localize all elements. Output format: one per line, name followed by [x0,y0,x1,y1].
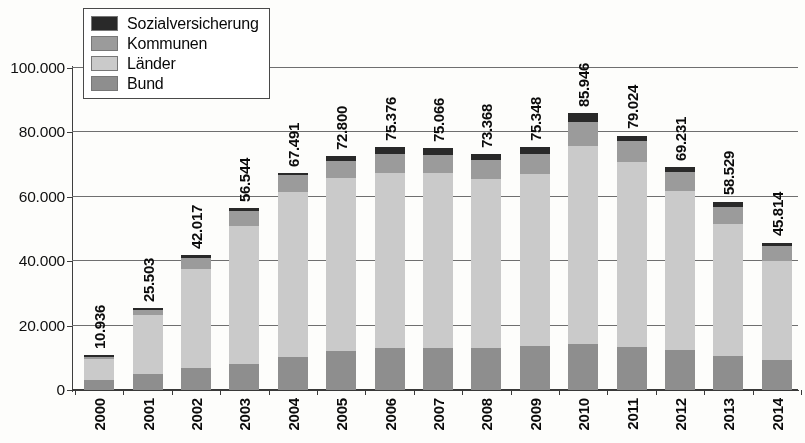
bar-group[interactable] [229,208,259,390]
legend-item[interactable]: Kommunen [91,34,259,53]
x-axis-tick-label: 2011 [624,398,641,430]
y-axis-tick-label: 80.000 [19,123,65,141]
legend-item-label: Bund [127,75,164,93]
bar-segment-bund [713,356,743,390]
bar-segment-kommunen [617,141,647,163]
x-axis-tick-label: 2013 [720,398,737,431]
bar-segment-länder [617,162,647,347]
bar-value-label: 25.503 [139,258,156,302]
bar-segment-kommunen [665,172,695,190]
bar-segment-kommunen [326,161,356,177]
bar-segment-länder [181,269,211,368]
y-axis-tick-label: 60.000 [19,188,65,206]
x-axis-tick-label: 2012 [672,398,689,431]
bar-group[interactable] [713,202,743,390]
bar-value-label: 56.544 [236,158,253,202]
bar-segment-kommunen [520,154,550,174]
bar-segment-bund [133,374,163,390]
bar-value-label: 79.024 [623,85,640,129]
bar-segment-länder [471,179,501,348]
bar-group[interactable] [181,255,211,390]
bar-group[interactable] [84,355,114,390]
bar-segment-bund [471,348,501,390]
bar-group[interactable] [568,113,598,390]
legend-item[interactable]: Bund [91,74,259,93]
bar-group[interactable] [326,156,356,390]
bar-value-label: 58.529 [720,151,737,195]
bar-segment-bund [520,346,550,390]
x-axis-tick-label: 2014 [769,398,786,431]
y-axis-tick-label: 40.000 [19,252,65,270]
bar-segment-länder [665,191,695,350]
x-axis-tick-label: 2007 [430,398,447,431]
bar-value-label: 75.066 [430,98,447,142]
bar-segment-länder [278,192,308,357]
legend-item[interactable]: Sozialversicherung [91,14,259,33]
bar-segment-länder [568,146,598,344]
x-axis-tick [220,390,221,395]
bar-segment-bund [423,348,453,391]
bar-value-label: 69.231 [672,117,689,161]
bar-group[interactable] [423,148,453,390]
x-axis-tick-label: 2006 [382,398,399,431]
bar-group[interactable] [617,136,647,390]
x-axis-tick [704,390,705,395]
bar-segment-bund [278,357,308,390]
bar-group[interactable] [471,154,501,390]
x-axis-tick [75,390,76,395]
legend-item[interactable]: Länder [91,54,259,73]
bar-segment-sozialversicherung [568,113,598,122]
bar-segment-bund [762,360,792,390]
x-axis-line [72,390,799,391]
legend-item-label: Länder [127,55,176,73]
bar-group[interactable] [665,167,695,390]
bar-group[interactable] [278,173,308,390]
x-axis-tick-label: 2004 [285,398,302,431]
bar-segment-bund [617,347,647,390]
bar-value-label: 75.376 [381,97,398,141]
bar-segment-länder [713,224,743,356]
bar-segment-kommunen [229,211,259,226]
x-axis-tick [753,390,754,395]
legend-swatch-icon [91,16,118,31]
y-axis-tick-label: 0 [57,381,65,399]
bar-group[interactable] [133,308,163,390]
x-axis-tick [607,390,608,395]
bar-segment-kommunen [181,258,211,269]
bar-segment-kommunen [568,122,598,146]
legend-swatch-icon [91,36,118,51]
y-axis-tick-label: 20.000 [19,317,65,335]
bar-segment-länder [375,173,405,349]
bar-group[interactable] [520,147,550,390]
x-axis-tick-label: 2001 [140,398,157,431]
y-axis-tick-label: 100.000 [10,59,65,77]
x-axis-tick-label: 2002 [188,398,205,431]
x-axis-tick-label: 2003 [236,398,253,431]
bar-segment-länder [520,174,550,346]
x-axis-tick-label: 2005 [333,398,350,431]
x-axis-tick [123,390,124,395]
bar-segment-kommunen [471,160,501,179]
x-axis-tick [317,390,318,395]
legend-item-label: Sozialversicherung [127,15,259,33]
bar-value-label: 42.017 [188,205,205,249]
bar-group[interactable] [762,243,792,390]
bar-segment-bund [665,350,695,390]
bar-segment-länder [423,173,453,347]
bar-value-label: 72.800 [333,106,350,150]
x-axis-tick [269,390,270,395]
x-axis-tick [172,390,173,395]
x-axis-tick [511,390,512,395]
bar-segment-bund [568,344,598,390]
bar-segment-länder [133,315,163,373]
bar-segment-kommunen [713,207,743,224]
bar-value-label: 73.368 [478,104,495,148]
x-axis-tick [414,390,415,395]
bar-value-label: 10.936 [91,305,108,349]
bar-value-label: 45.814 [768,192,785,236]
legend-item-label: Kommunen [127,35,207,53]
bar-segment-bund [229,364,259,390]
x-axis-tick [656,390,657,395]
bar-segment-länder [229,226,259,363]
bar-group[interactable] [375,147,405,390]
